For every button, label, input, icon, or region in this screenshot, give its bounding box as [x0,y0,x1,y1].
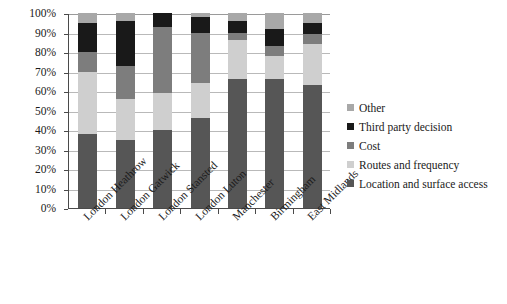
y-tick-label: 30% [35,145,56,156]
y-tick-mark [64,209,68,210]
bar-segment[interactable] [265,56,284,79]
bar-segment[interactable] [265,13,284,29]
y-tick-label: 10% [35,184,56,195]
x-tick-mark [330,209,331,214]
legend-swatch-icon [347,180,354,187]
bar-segment[interactable] [78,13,97,23]
bar-segment[interactable] [191,33,210,84]
bar-segment[interactable] [116,99,135,140]
bar-segment[interactable] [78,23,97,52]
x-tick-mark [105,209,106,214]
x-tick-mark [143,209,144,214]
bar-segment[interactable] [228,13,247,21]
y-tick-label: 40% [35,125,56,136]
stacked-bar-chart: 0%10%20%30%40%50%60%70%80%90%100% London… [0,0,507,304]
y-tick-label: 0% [41,203,56,214]
bar-segment[interactable] [303,34,322,44]
bar-segment[interactable] [191,83,210,118]
stacked-bar[interactable] [78,14,97,208]
legend-label: Location and surface access [359,178,488,190]
x-tick-mark [218,209,219,214]
bar-segment[interactable] [116,13,135,21]
chart-legend: OtherThird party decisionCostRoutes and … [347,98,505,193]
bar-segment[interactable] [303,44,322,85]
x-tick-mark [293,209,294,214]
legend-item[interactable]: Routes and frequency [347,155,505,174]
y-tick-label: 90% [35,28,56,39]
bar-segment[interactable] [303,23,322,35]
bar-segment[interactable] [78,134,97,208]
bar-segment[interactable] [153,13,172,27]
legend-label: Routes and frequency [359,159,459,171]
legend-label: Other [359,102,385,114]
bar-segment[interactable] [228,33,247,41]
bar-segment[interactable] [228,40,247,79]
legend-label: Third party decision [359,121,452,133]
y-tick-label: 80% [35,47,56,58]
legend-item[interactable]: Other [347,98,505,117]
x-tick-mark [180,209,181,214]
legend-swatch-icon [347,104,354,111]
bar-segment[interactable] [303,13,322,23]
y-tick-label: 60% [35,86,56,97]
legend-item[interactable]: Cost [347,136,505,155]
bar-segment[interactable] [228,21,247,33]
bar-segment[interactable] [191,13,210,17]
bar-segment[interactable] [78,72,97,134]
bar-segment[interactable] [191,17,210,33]
legend-item[interactable]: Third party decision [347,117,505,136]
bar-segment[interactable] [265,46,284,56]
legend-swatch-icon [347,123,354,130]
bar-segment[interactable] [116,21,135,66]
y-tick-label: 20% [35,164,56,175]
x-tick-mark [255,209,256,214]
y-tick-label: 50% [35,106,56,117]
bar-segment[interactable] [265,29,284,47]
y-tick-label: 100% [29,8,56,19]
y-axis: 0%10%20%30%40%50%60%70%80%90%100% [0,0,64,224]
legend-swatch-icon [347,142,354,149]
bar-slot [78,14,97,208]
legend-label: Cost [359,140,380,152]
bar-segment[interactable] [153,93,172,130]
bar-segment[interactable] [78,52,97,72]
bar-segment[interactable] [116,66,135,99]
legend-swatch-icon [347,161,354,168]
y-tick-label: 70% [35,67,56,78]
legend-item[interactable]: Location and surface access [347,174,505,193]
bar-segment[interactable] [153,27,172,93]
